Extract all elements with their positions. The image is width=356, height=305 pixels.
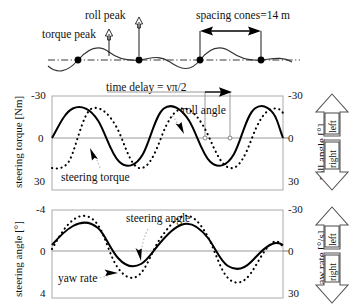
- torque-peak-arrow: [105, 29, 112, 56]
- steering-angle-label-arrow: [136, 229, 149, 261]
- middle-chart-panel: steering torque [Nm] -30 0 30 -30 0 30 r…: [0, 80, 356, 192]
- slalom-track-panel: roll peak torque peak spacing cones=14 m: [0, 0, 356, 80]
- steering-angle-curve-label: steering angle: [126, 213, 190, 225]
- steering-torque-curve-label: steering torque: [61, 172, 130, 184]
- bottom-chart-panel: steering angle [°] -4 0 4 -30 0 30 yaw r…: [0, 195, 356, 305]
- cone-marker: [136, 57, 143, 64]
- spacing-cones-measure: [200, 26, 261, 59]
- steering-torque-label-arrow: [90, 148, 100, 168]
- yaw-rate-curve-label: yaw rate: [58, 273, 97, 285]
- middle-direction-arrows: [312, 80, 356, 192]
- roll-peak-label: roll peak: [85, 10, 126, 22]
- spacing-cones-label: spacing cones=14 m: [196, 10, 290, 22]
- series-steering-torque: [52, 106, 283, 166]
- middle-left-direction-label: left: [329, 120, 339, 133]
- bottom-direction-arrows: [312, 195, 356, 305]
- bottom-right-direction-label: right: [329, 263, 339, 281]
- roll-peak-arrow: [135, 17, 142, 56]
- cone-marker: [75, 57, 82, 64]
- middle-right-direction-label: right: [329, 150, 339, 168]
- roll-angle-curve-label: roll angle: [182, 105, 226, 117]
- bottom-left-direction-label: left: [329, 233, 339, 246]
- roll-angle-label-arrow: [172, 116, 184, 134]
- torque-peak-label: torque peak: [42, 29, 96, 41]
- vehicle-path: [48, 48, 292, 71]
- middle-chart-svg: [0, 80, 356, 192]
- figure-root: roll peak torque peak spacing cones=14 m…: [0, 0, 356, 305]
